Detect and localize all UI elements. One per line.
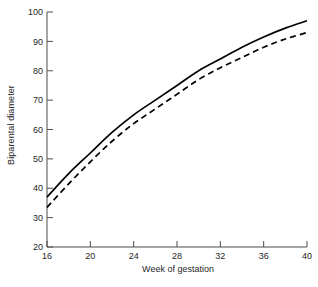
y-tick-label: 40 (33, 183, 43, 193)
x-tick-label: 28 (172, 251, 182, 261)
y-tick-label: 90 (33, 37, 43, 47)
y-tick-label: 30 (33, 213, 43, 223)
y-axis-title-container: Biparental diameter (0, 0, 22, 250)
y-axis-title: Biparental diameter (6, 85, 16, 165)
chart-plot-area: 2030405060708090100 16202428323640 (0, 0, 318, 262)
y-axis-ticks: 2030405060708090100 (28, 7, 53, 252)
y-tick-label: 100 (28, 7, 43, 17)
x-tick-label: 16 (42, 251, 52, 261)
x-tick-label: 20 (85, 251, 95, 261)
y-tick-label: 70 (33, 95, 43, 105)
series-line-solid (47, 21, 307, 197)
data-series-group (47, 21, 307, 208)
x-tick-label: 24 (129, 251, 139, 261)
y-tick-label: 50 (33, 154, 43, 164)
x-tick-label: 40 (302, 251, 312, 261)
chart-figure: Biparental diameter 2030405060708090100 … (0, 0, 318, 287)
x-axis-title: Week of gestation (47, 264, 309, 274)
x-axis-ticks: 16202428323640 (42, 241, 312, 261)
series-line-dashed (47, 33, 307, 208)
y-tick-label: 60 (33, 125, 43, 135)
y-tick-label: 80 (33, 66, 43, 76)
x-tick-label: 36 (259, 251, 269, 261)
x-tick-label: 32 (215, 251, 225, 261)
